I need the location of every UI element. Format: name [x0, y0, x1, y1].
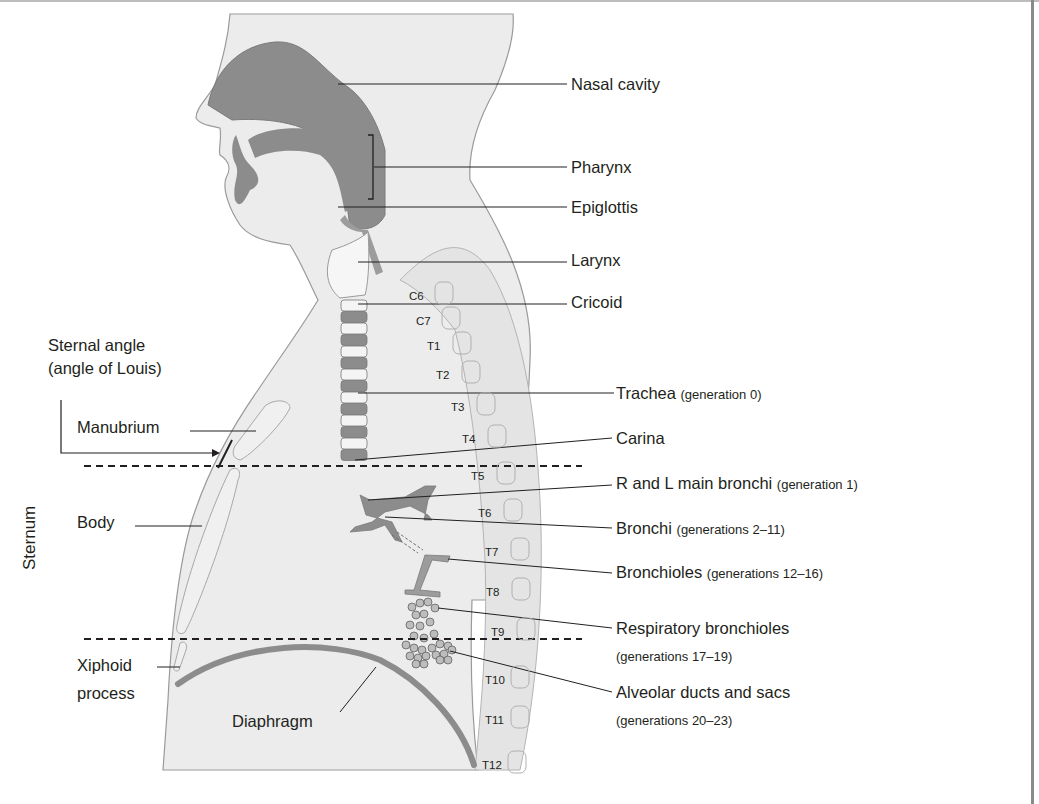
label-bronchioles: Bronchioles (generations 12–16): [616, 563, 823, 583]
label-cricoid: Cricoid: [571, 293, 622, 311]
label-process: process: [77, 684, 135, 702]
vertebra-label-t10: T10: [485, 674, 505, 686]
label-alveolar-ducts-generation: (generations 20–23): [616, 712, 732, 730]
vertebra-label-t4: T4: [462, 433, 476, 445]
label-bronchi-generation: (generations 2–11): [677, 522, 785, 537]
trachea-ring: [341, 335, 367, 346]
vertebra-label-c6: C6: [409, 290, 424, 302]
vertebra-label-t5: T5: [471, 470, 484, 482]
alveolus: [426, 618, 434, 626]
label-bronchi: Bronchi (generations 2–11): [616, 519, 785, 539]
label-epiglottis: Epiglottis: [571, 198, 638, 216]
vertebra-label-t3: T3: [451, 401, 464, 413]
alveolus: [448, 646, 456, 654]
label-trachea: Trachea (generation 0): [616, 384, 761, 404]
vertebra-label-t9: T9: [491, 626, 504, 638]
trachea-ring: [341, 392, 367, 403]
alveolus: [412, 611, 420, 619]
vertebra-label-c7: C7: [416, 315, 431, 327]
label-xiphoid: Xiphoid: [77, 656, 132, 674]
vertebra-label-t7: T7: [485, 546, 498, 558]
trachea-ring: [341, 323, 367, 334]
alveolus: [431, 604, 439, 612]
vertebra-label-t2: T2: [436, 369, 449, 381]
vertebra-label-t11: T11: [485, 714, 504, 726]
trachea-ring: [341, 346, 367, 357]
alveolus: [430, 630, 438, 638]
alveolus: [420, 610, 428, 618]
anatomy-diagram: C6C7T1T2T3T4T5T6T7T8T9T10T11T12: [0, 0, 1039, 804]
label-respiratory-bronchioles-generation: (generations 17–19): [616, 648, 732, 666]
alveolus: [402, 641, 410, 649]
label-trachea-generation: (generation 0): [681, 387, 762, 402]
trachea-ring: [341, 415, 367, 426]
label-body: Body: [77, 513, 115, 531]
trachea-ring: [341, 427, 367, 438]
label-nasal-cavity: Nasal cavity: [571, 75, 660, 93]
label-respiratory-bronchioles: Respiratory bronchioles: [616, 619, 789, 637]
alveolus: [424, 598, 432, 606]
trachea-ring: [341, 381, 367, 392]
alveolus: [436, 656, 444, 664]
vertebra-label-t12: T12: [482, 759, 502, 771]
label-main-bronchi-generation: (generation 1): [777, 477, 858, 492]
alveolus: [412, 660, 420, 668]
alveolus: [420, 660, 428, 668]
label-pharynx: Pharynx: [571, 158, 632, 176]
vertebra-label-t8: T8: [486, 586, 499, 598]
trachea-ring: [341, 300, 367, 311]
alveolus: [416, 622, 424, 630]
trachea-ring: [341, 404, 367, 415]
alveolus: [416, 599, 424, 607]
label-diaphragm: Diaphragm: [232, 712, 313, 730]
alveolus: [444, 656, 452, 664]
vertebra-label-t1: T1: [427, 340, 440, 352]
alveolus: [436, 640, 444, 648]
vertebra-label-t6: T6: [478, 507, 491, 519]
label-manubrium: Manubrium: [77, 418, 160, 436]
alveolus: [408, 603, 416, 611]
trachea-rings: [341, 300, 367, 461]
trachea-ring: [341, 312, 367, 323]
trachea-ring: [341, 369, 367, 380]
alveolus: [428, 644, 436, 652]
label-main-bronchi: R and L main bronchi (generation 1): [616, 474, 858, 494]
label-sternum: Sternum: [20, 506, 40, 570]
label-alveolar-ducts: Alveolar ducts and sacs: [616, 683, 790, 701]
label-carina: Carina: [616, 429, 665, 447]
trachea-ring: [341, 438, 367, 449]
label-bronchioles-generation: (generations 12–16): [707, 566, 823, 581]
label-larynx: Larynx: [571, 251, 621, 269]
alveolus: [410, 644, 418, 652]
label-angle-of-louis: (angle of Louis): [48, 359, 162, 377]
alveolus: [406, 652, 414, 660]
alveolus: [406, 621, 414, 629]
label-sternal-angle: Sternal angle: [48, 336, 145, 354]
trachea-ring: [341, 358, 367, 369]
alveolus: [422, 652, 430, 660]
